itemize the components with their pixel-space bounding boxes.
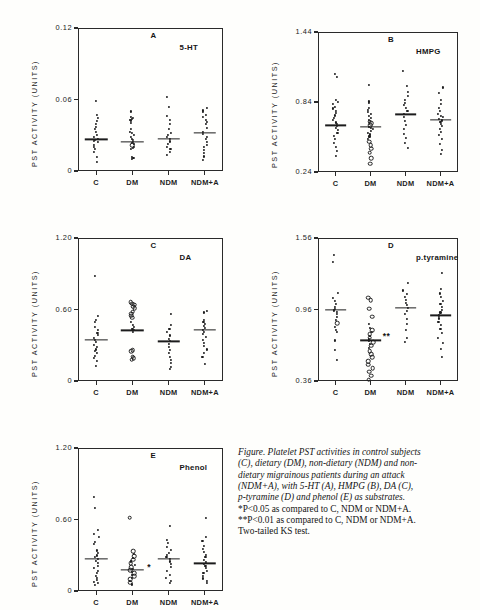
panel-substrate-label: Phenol bbox=[180, 463, 208, 472]
mean-bar bbox=[194, 563, 216, 564]
x-tick-mark bbox=[96, 591, 97, 595]
caption-line: p-tyramine (D) and phenol (E) as substra… bbox=[238, 492, 478, 503]
caption-line: Figure. Platelet PST activities in contr… bbox=[238, 447, 478, 458]
x-axis-label-dm: DM bbox=[126, 598, 138, 607]
mean-bar bbox=[85, 558, 107, 559]
caption-line: Two-tailed KS test. bbox=[238, 526, 478, 537]
figure-caption: Figure. Platelet PST activities in contr… bbox=[238, 447, 478, 538]
y-tick-label: 0 bbox=[34, 586, 72, 595]
caption-line: **P<0.01 as compared to C, NDM or NDM+A. bbox=[238, 515, 478, 526]
caption-line: (C), dietary (DM), non-dietary (NDM) and… bbox=[238, 458, 478, 469]
data-point bbox=[128, 515, 133, 520]
mean-bar bbox=[157, 558, 179, 559]
x-axis-label-ndm-plus-a: NDM+A bbox=[191, 598, 219, 607]
figure-container: 00.060.12PST ACTIVITY (UNITS)A5-HTCDMNDM… bbox=[0, 0, 480, 610]
mean-bar bbox=[121, 570, 143, 571]
y-tick-mark bbox=[74, 590, 78, 591]
x-axis-label-c: C bbox=[93, 598, 99, 607]
y-tick-mark bbox=[74, 447, 78, 448]
x-tick-mark bbox=[168, 591, 169, 595]
x-axis-label-ndm: NDM bbox=[160, 598, 178, 607]
caption-line: (NDM+A), with 5-HT (A), HMPG (B), DA (C)… bbox=[238, 481, 478, 492]
significance-marker: * bbox=[147, 563, 151, 572]
caption-line: dietary migrainous patients during an at… bbox=[238, 470, 478, 481]
y-tick-label: 1.20 bbox=[34, 443, 72, 452]
panel-letter: E bbox=[151, 451, 156, 460]
x-tick-mark bbox=[132, 591, 133, 595]
y-axis-label: PST ACTIVITY (UNITS) bbox=[30, 480, 39, 587]
caption-line: *P<0.05 as compared to C, NDM or NDM+A. bbox=[238, 504, 478, 515]
y-tick-label: 0.60 bbox=[34, 515, 72, 524]
y-tick-mark bbox=[74, 519, 78, 520]
x-tick-mark bbox=[204, 591, 205, 595]
